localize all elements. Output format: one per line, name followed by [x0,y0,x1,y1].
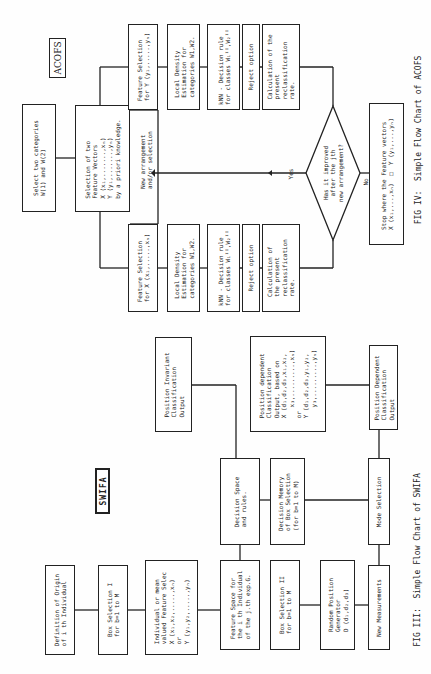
feature-selection-x-box: Feature Selection for X (x₁,.....,xₙ) [128,224,158,312]
box-selection-2-box: Box Selection II for b=1 to M [270,560,300,650]
decision-diamond-text: Has it improved after the jth new arrang… [312,130,354,216]
box-selection-1-box: Box Selection I for b=1 to M [98,565,128,655]
stop-box: Stop where the Feature vectors X (x₁,...… [369,103,404,245]
knn-x-box: kNN - Decision rule for classes W₁ᴵᴵ,W₂ᴵ… [207,224,240,312]
reject-y-box: Reject option [242,24,260,110]
new-arrangement-label: New arrangement and/or selection [135,125,157,195]
random-position-box: Random Position Generator D (d₁,d₂,d₃) [320,560,355,650]
yes-label: Yes [285,167,295,181]
calculation-x-box: Calculation of the present reclassificat… [262,224,300,312]
mode-selection-box: Mode Selection [368,458,390,545]
individual-mean-box: Individual or mean valued Feature Selec … [145,560,198,655]
local-density-y-box: Local Density Estimation for categories … [167,24,200,110]
swifa-title-box: SWIFA [95,468,110,514]
select-categories-box: Select two categories W(1) and W(2) [22,104,56,212]
local-density-x-box: Local Density Estimation for categories … [167,224,200,312]
selection-vectors-text: Selection of two Feature Vectors X (x₁,.… [84,119,121,198]
position-invariant-box: Position Invariant Classification Output [155,337,192,432]
fig-iii-caption: FIG III: Simple Flow Chart of SWIFA [410,465,424,655]
position-dependent-detail-box: Position dependent Classification Output… [250,336,326,432]
select-categories-text: Select two categories W(1) and W(2) [32,120,47,196]
fig-iv-caption: FIG IV: Simple Flow Chart of ACOFS [411,50,425,230]
acofs-title-box: ACOFS [49,38,66,78]
decision-space-box: Decision Space and rules. [220,458,260,545]
scanned-page: ACOFS Select two categories W(1) and W(2… [0,0,431,674]
reject-x-box: Reject option [242,224,260,312]
feature-space-box: Feature Space for the i th Individual of… [220,560,260,650]
swifa-title: SWIFA [98,476,107,505]
knn-y-box: kNN - Decision rule for classes W₁ᴵᴵ,W₂ᴵ… [207,24,240,110]
new-measurements-box: New Measurements [368,565,390,650]
decision-memory-box: Decision Memory of Box Selection (for b=… [270,458,305,545]
selection-vectors-box: Selection of two Feature Vectors X (x₁,.… [75,105,130,212]
definition-origin-box: Definition of Origin of i th Individual [45,565,75,655]
position-dependent-output-box: Position Dependent Classification Output [369,345,398,430]
acofs-title: ACOFS [53,41,63,74]
calculation-y-box: Calculation of the present reclassificat… [262,24,300,110]
feature-selection-y-box: Feature Selection for Y (y₁,.....,yₙ) [128,24,158,110]
